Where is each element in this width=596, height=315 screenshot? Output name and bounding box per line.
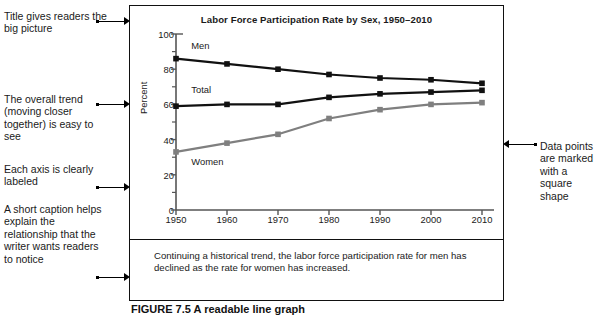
- series-label-women: Women: [191, 156, 223, 167]
- annotation-title-note: Title gives readers the big picture: [4, 10, 108, 35]
- figure-box: Labor Force Participation Rate by Sex, 1…: [129, 5, 504, 301]
- series-label-men: Men: [191, 40, 209, 51]
- pointer-arrow-marker: [503, 140, 537, 149]
- caption-divider: [130, 239, 503, 240]
- chart-plot-area: Percent 020406080100 1950196019701980199…: [130, 28, 505, 238]
- annotation-caption-note: A short caption helps explain the relati…: [4, 203, 108, 265]
- pointer-arrow-trend: [96, 100, 130, 109]
- chart-title: Labor Force Participation Rate by Sex, 1…: [130, 14, 503, 25]
- series-label-total: Total: [191, 84, 211, 95]
- annotation-axis-note: Each axis is clearly labeled: [4, 163, 108, 188]
- annotation-trend-note: The overall trend (moving closer togethe…: [4, 93, 108, 143]
- pointer-arrow-title: [96, 17, 130, 26]
- annotation-marker-note: Data points are marked with a square sha…: [540, 140, 596, 202]
- pointer-arrow-axis: [96, 183, 130, 192]
- figure-number-caption: FIGURE 7.5 A readable line graph: [131, 303, 561, 315]
- series-labels: MenTotalWomen: [130, 28, 505, 238]
- pointer-arrow-caption: [96, 273, 130, 282]
- chart-caption: Continuing a historical trend, the labor…: [154, 250, 470, 274]
